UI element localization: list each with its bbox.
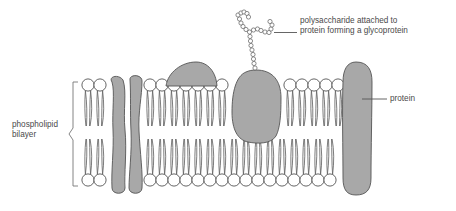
peripheral-protein-dome: [166, 62, 217, 86]
transmembrane-protein-left-a: [111, 76, 126, 193]
transmembrane-protein-right: [343, 62, 372, 195]
phospholipid-bilayer-label: phospholipidbilayer: [12, 120, 58, 141]
polysaccharide-label: polysaccharide attached toprotein formin…: [300, 16, 408, 37]
bilayer-label-line1: phospholipid: [12, 120, 58, 129]
protein-label: protein: [390, 94, 415, 104]
polysaccharide-label-line1: polysaccharide attached to: [300, 16, 397, 25]
bilayer-bracket: [69, 82, 78, 186]
polysaccharide-label-line2: protein forming a glycoprotein: [300, 26, 408, 35]
polysaccharide-chain: [236, 10, 274, 70]
glycoprotein-blob: [232, 70, 281, 143]
membrane-diagram: polysaccharide attached toprotein formin…: [0, 0, 456, 211]
bilayer-label-line2: bilayer: [12, 130, 36, 139]
